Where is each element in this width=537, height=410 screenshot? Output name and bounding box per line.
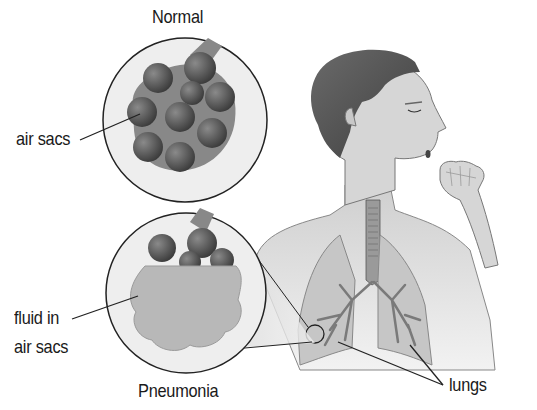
normal-title: Normal — [152, 6, 203, 28]
lungs-label: lungs — [449, 374, 487, 396]
air-sacs-label: air sacs — [16, 128, 70, 150]
pneumonia-inset — [72, 208, 266, 373]
fluid-label-line2: air sacs — [14, 336, 68, 358]
fluid-label-line1: fluid in — [14, 307, 59, 329]
pneumonia-title: Pneumonia — [138, 380, 218, 402]
normal-inset — [80, 38, 267, 202]
pneumonia-diagram — [0, 0, 537, 410]
